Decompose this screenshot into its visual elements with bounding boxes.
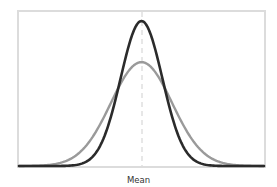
bell-curve-chart <box>0 0 277 187</box>
x-axis-label: Mean <box>0 175 277 185</box>
